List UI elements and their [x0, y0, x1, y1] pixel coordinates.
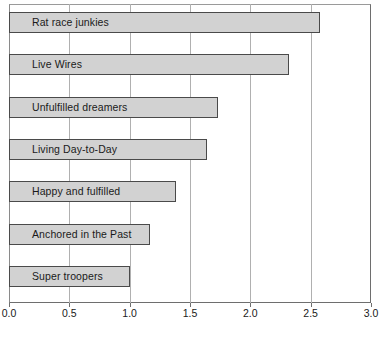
bar-category-label: Unfulfilled dreamers — [32, 97, 127, 118]
bar-category-label: Live Wires — [32, 54, 82, 75]
x-axis-tick-label: 1.5 — [183, 307, 198, 319]
bar-row: Unfulfilled dreamers — [9, 97, 371, 118]
x-axis-tick-label: 2.0 — [243, 307, 258, 319]
bar-category-label: Happy and fulfilled — [32, 181, 120, 202]
bar-row: Rat race junkies — [9, 12, 371, 33]
x-axis-tick-label: 0.0 — [2, 307, 17, 319]
bar-category-label: Anchored in the Past — [32, 224, 131, 245]
bar-chart: Rat race junkiesLive WiresUnfulfilled dr… — [0, 0, 382, 340]
plot-area: Rat race junkiesLive WiresUnfulfilled dr… — [9, 4, 371, 303]
bar-row: Anchored in the Past — [9, 224, 371, 245]
bars-layer: Rat race junkiesLive WiresUnfulfilled dr… — [9, 4, 371, 303]
bar-row: Happy and fulfilled — [9, 181, 371, 202]
bar-category-label: Living Day-to-Day — [32, 139, 117, 160]
x-axis-tick-label: 1.0 — [122, 307, 137, 319]
bar-category-label: Super troopers — [32, 266, 103, 287]
bar-row: Live Wires — [9, 54, 371, 75]
x-axis-tick-label: 3.0 — [364, 307, 379, 319]
x-axis-tick-label: 2.5 — [303, 307, 318, 319]
bar-row: Living Day-to-Day — [9, 139, 371, 160]
bar-category-label: Rat race junkies — [32, 12, 109, 33]
x-axis-tick-label: 0.5 — [62, 307, 77, 319]
x-axis-tick-labels: 0.00.51.01.52.02.53.0 — [0, 307, 382, 323]
bar-row: Super troopers — [9, 266, 371, 287]
